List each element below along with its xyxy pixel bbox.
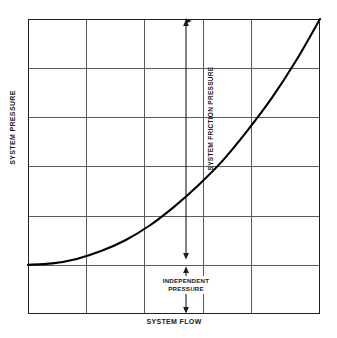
x-axis-label: SYSTEM FLOW: [28, 318, 320, 325]
independent-pressure-label-line2: PRESSURE: [147, 285, 225, 293]
system-curve-figure: SYSTEM FRICTION PRESSURE INDEPENDENT PRE…: [0, 0, 337, 338]
friction-pressure-label: SYSTEM FRICTION PRESSURE: [207, 59, 214, 179]
horizontal-gridline: [29, 265, 319, 266]
horizontal-gridline: [29, 117, 319, 118]
plot-area: [28, 19, 320, 314]
horizontal-gridline: [29, 166, 319, 167]
horizontal-gridline: [29, 216, 319, 217]
independent-pressure-label: INDEPENDENT PRESSURE: [147, 276, 225, 294]
horizontal-gridline: [29, 68, 319, 69]
y-axis-label: SYSTEM PRESSURE: [9, 68, 16, 188]
independent-pressure-label-line1: INDEPENDENT: [147, 277, 225, 285]
